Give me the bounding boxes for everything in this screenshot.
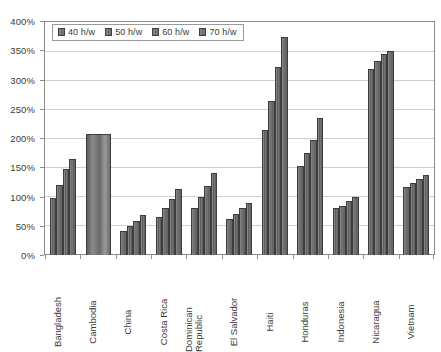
legend-swatch-icon <box>58 28 65 36</box>
bar-group <box>328 22 363 255</box>
x-axis-tick-label: Costa Rica <box>159 299 169 345</box>
bar-group <box>186 22 221 255</box>
legend-swatch-icon <box>199 28 206 36</box>
bar-group <box>399 22 434 255</box>
bar <box>352 197 359 255</box>
legend-item-label: 70 h/w <box>209 27 236 37</box>
legend-item-label: 40 h/w <box>68 27 95 37</box>
bar-group <box>151 22 186 255</box>
bar-group <box>116 22 151 255</box>
x-axis-label-cell: Bangladesh <box>45 260 80 322</box>
x-axis-tick-label: Honduras <box>300 301 310 342</box>
bar-groups <box>45 22 434 255</box>
legend-swatch-icon <box>152 28 159 36</box>
x-axis-label-cell: El Salvador <box>222 260 257 322</box>
bar-group <box>45 22 80 255</box>
bar <box>317 118 324 255</box>
bar <box>69 159 76 255</box>
bar <box>140 215 147 255</box>
bar <box>175 189 182 255</box>
x-axis-tick-label: Indonesia <box>336 301 346 342</box>
x-axis-tick-label: El Salvador <box>229 298 239 347</box>
x-axis-label-cell: Costa Rica <box>151 260 186 322</box>
y-axis-tick-label: 150% <box>10 162 35 173</box>
x-axis-label-cell: Haiti <box>257 260 292 322</box>
x-axis-tick-label: Bangladesh <box>53 297 63 347</box>
bar-group <box>363 22 398 255</box>
bar <box>281 37 288 255</box>
x-axis-label-cell: Dominican Republic <box>186 260 221 322</box>
bar-group <box>293 22 328 255</box>
y-axis-tick-label: 100% <box>10 191 35 202</box>
x-axis-label-cell: Indonesia <box>328 260 363 322</box>
x-axis-tick-label: China <box>123 310 133 335</box>
y-axis-tick-label: 200% <box>10 133 35 144</box>
legend-item[interactable]: 60 h/w <box>152 27 189 37</box>
x-axis-labels: BangladeshCambodiaChinaCosta RicaDominic… <box>45 260 434 322</box>
y-axis-tick-label: 400% <box>10 16 35 27</box>
bar <box>86 134 111 255</box>
x-axis-tick-label: Dominican Republic <box>184 292 204 352</box>
x-axis-label-cell: Vietnam <box>399 260 434 322</box>
y-axis: 400% 350% 300% 250% 200% 150% 100% 50% 0… <box>0 21 40 255</box>
x-axis-tick-label: Vietnam <box>406 305 416 340</box>
x-axis-label-cell: Cambodia <box>80 260 115 322</box>
x-axis-label-cell: China <box>116 260 151 322</box>
x-axis-tick-label: Cambodia <box>88 300 98 343</box>
bar-group <box>222 22 257 255</box>
legend-swatch-icon <box>105 28 112 36</box>
bar <box>246 203 253 255</box>
legend-item[interactable]: 70 h/w <box>199 27 236 37</box>
legend-item-label: 50 h/w <box>115 27 142 37</box>
bar <box>423 175 430 255</box>
y-axis-tick <box>40 255 44 256</box>
y-axis-tick-label: 300% <box>10 74 35 85</box>
x-axis-tick-label: Nicaragua <box>371 300 381 343</box>
y-axis-tick-label: 350% <box>10 45 35 56</box>
bar-group <box>257 22 292 255</box>
bar-group <box>80 22 115 255</box>
y-axis-tick-label: 250% <box>10 103 35 114</box>
x-axis-label-cell: Nicaragua <box>363 260 398 322</box>
legend: 40 h/w 50 h/w 60 h/w 70 h/w <box>52 24 244 41</box>
legend-item[interactable]: 40 h/w <box>58 27 95 37</box>
y-axis-tick-label: 0% <box>21 250 35 261</box>
x-axis-tick-label: Haiti <box>265 312 275 331</box>
bar <box>211 173 218 255</box>
bar <box>387 51 394 255</box>
legend-item-label: 60 h/w <box>162 27 189 37</box>
legend-item[interactable]: 50 h/w <box>105 27 142 37</box>
y-axis-tick-label: 50% <box>16 220 35 231</box>
x-axis-label-cell: Honduras <box>293 260 328 322</box>
